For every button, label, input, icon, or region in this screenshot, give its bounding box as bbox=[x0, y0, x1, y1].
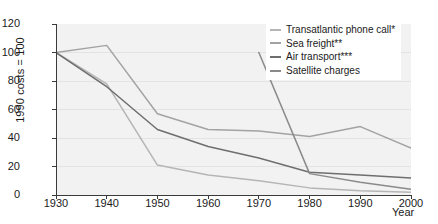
legend: Transatlantic phone call*Sea freight**Ai… bbox=[266, 20, 401, 80]
y-tick-label: 40 bbox=[0, 132, 20, 143]
legend-item: Air transport*** bbox=[270, 50, 395, 64]
legend-swatch-icon bbox=[270, 56, 281, 58]
legend-swatch-icon bbox=[270, 29, 281, 31]
legend-label: Air transport*** bbox=[286, 50, 352, 64]
x-tick-label: 1970 bbox=[236, 198, 282, 209]
y-tick-label: 120 bbox=[0, 18, 20, 29]
x-tick-label: 1990 bbox=[337, 198, 383, 209]
x-tick-label: 1950 bbox=[134, 198, 180, 209]
x-tick-label: 1930 bbox=[33, 198, 79, 209]
legend-label: Transatlantic phone call* bbox=[286, 23, 395, 37]
line-chart: 1990 costs = 100 Year 020406080100120 19… bbox=[0, 0, 438, 224]
y-tick-label: 0 bbox=[0, 189, 20, 200]
y-tick-label: 100 bbox=[0, 47, 20, 58]
legend-item: Transatlantic phone call* bbox=[270, 23, 395, 37]
legend-item: Satellite charges bbox=[270, 64, 395, 78]
legend-swatch-icon bbox=[270, 42, 281, 44]
y-tick-label: 60 bbox=[0, 104, 20, 115]
y-tick-label: 20 bbox=[0, 161, 20, 172]
legend-label: Sea freight** bbox=[286, 37, 342, 51]
x-tick-label: 1940 bbox=[84, 198, 130, 209]
legend-label: Satellite charges bbox=[286, 64, 360, 78]
x-tick-label: 2000 bbox=[388, 198, 434, 209]
x-tick-label: 1960 bbox=[185, 198, 231, 209]
y-tick-label: 80 bbox=[0, 75, 20, 86]
legend-swatch-icon bbox=[270, 70, 281, 72]
x-tick-label: 1980 bbox=[287, 198, 333, 209]
legend-item: Sea freight** bbox=[270, 37, 395, 51]
